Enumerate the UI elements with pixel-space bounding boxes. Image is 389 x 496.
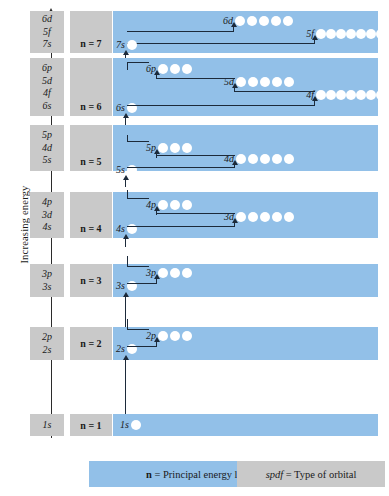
level-label: 1s <box>120 418 131 432</box>
orbital-stack-n4: 4p 3d 4s <box>30 192 64 238</box>
connector-hline <box>127 198 149 199</box>
orbital-circle <box>326 29 336 39</box>
orbital-circle <box>272 154 282 164</box>
orbital-circle <box>182 64 192 74</box>
shell-label: n = 3 <box>80 275 101 286</box>
orbital-stack-label: 6p <box>42 62 52 75</box>
legend-key-n: n <box>146 469 152 480</box>
shell-box-n5: n = 5 <box>70 125 112 171</box>
shell-label: n = 7 <box>80 38 101 49</box>
shell-box-n2: n = 2 <box>70 327 112 360</box>
level-label: 2s <box>116 342 127 356</box>
orbital-circle <box>260 154 270 164</box>
orbital-circle <box>346 90 356 100</box>
connector-vline <box>125 238 126 247</box>
orbital-circle <box>346 29 356 39</box>
connector-hline <box>234 91 315 92</box>
orbital-stack-n1: 1s <box>30 414 64 436</box>
orbital-circle <box>376 29 386 39</box>
orbital-circle <box>284 212 294 222</box>
orbital-circle <box>170 143 180 153</box>
orbital-stack-label: 5p <box>42 129 52 142</box>
orbital-stack-n7: 6d 5f 7s <box>30 11 64 53</box>
orbital-stack-label: 4p <box>42 196 52 209</box>
shell-label: n = 6 <box>80 101 101 112</box>
connector-hline <box>127 62 149 63</box>
orbital-circle <box>131 420 141 430</box>
connector-hline <box>156 155 235 156</box>
legend-key-spdf: spdf <box>266 469 284 480</box>
orbital-circle <box>182 143 192 153</box>
energy-axis-label: Increasing energy <box>18 155 31 295</box>
legend-text-spdf: = Type of orbital <box>286 469 357 480</box>
orbital-stack-label: 3p <box>42 268 52 281</box>
orbital-circle <box>284 77 294 87</box>
connector-hline <box>127 43 315 44</box>
connector-hline <box>127 346 157 347</box>
shell-box-n6: n = 6 <box>70 58 112 116</box>
connector-vline <box>125 359 126 417</box>
connector-vline <box>127 256 128 267</box>
shell-box-n7: n = 7 <box>70 11 112 53</box>
connector-vline <box>127 135 128 142</box>
orbital-circle <box>182 331 192 341</box>
connector-hline <box>127 31 234 32</box>
orbital-circle <box>170 268 180 278</box>
shell-box-n4: n = 4 <box>70 192 112 238</box>
orbital-circle <box>271 16 281 26</box>
shell-box-n1: n = 1 <box>70 414 112 436</box>
orbital-circle <box>248 77 258 87</box>
orbital-stack-label: 5f <box>43 26 51 39</box>
orbital-stack-label: 2s <box>43 344 52 357</box>
orbital-circle <box>247 16 257 26</box>
connector-hline <box>156 213 235 214</box>
orbital-circle <box>356 29 366 39</box>
orbital-circle <box>170 200 180 210</box>
orbital-stack-label: 7s <box>43 38 52 51</box>
orbital-circle <box>326 90 336 100</box>
orbital-stack-label: 1s <box>43 419 52 432</box>
orbital-circle <box>182 268 192 278</box>
connector-hline <box>127 105 315 106</box>
connector-vline <box>127 62 128 70</box>
energy-level-diagram: Increasing energy 6d 5f 7s n = 7 6d 5f 7… <box>0 0 389 496</box>
shell-label: n = 5 <box>80 156 101 167</box>
orbital-stack-n3: 3p 3s <box>30 264 64 297</box>
orbital-circle <box>284 154 294 164</box>
orbital-circle <box>366 90 376 100</box>
orbital-stack-label: 6s <box>43 100 52 113</box>
orbital-circle <box>336 90 346 100</box>
orbital-circle <box>260 212 270 222</box>
shell-label: n = 4 <box>80 223 101 234</box>
orbital-stack-label: 2p <box>42 331 52 344</box>
orbital-stack-label: 4d <box>42 142 52 155</box>
level-label: 3s <box>116 279 127 293</box>
connector-hline <box>127 167 235 168</box>
connector-hline <box>127 283 157 284</box>
orbital-circle <box>336 29 346 39</box>
orbital-stack-label: 3s <box>43 281 52 294</box>
orbital-circle <box>259 16 269 26</box>
connector-hline <box>156 78 235 79</box>
legend-type-of-orbital: spdf = Type of orbital <box>237 461 385 487</box>
orbital-circle <box>248 212 258 222</box>
band-n1 <box>113 414 378 436</box>
orbital-circle <box>170 331 180 341</box>
orbital-circle <box>283 16 293 26</box>
orbital-circle <box>366 29 376 39</box>
connector-hline <box>127 329 149 330</box>
orbital-circle <box>272 212 282 222</box>
connector-hline <box>127 266 149 267</box>
connector-vline <box>127 190 128 199</box>
shell-label: n = 1 <box>80 420 101 431</box>
orbital-circle <box>272 77 282 87</box>
connector-vline <box>127 319 128 330</box>
orbital-stack-n2: 2p 2s <box>30 327 64 360</box>
orbital-circle <box>170 64 180 74</box>
connector-hline <box>127 226 235 227</box>
orbital-stack-n5: 5p 4d 5s <box>30 125 64 171</box>
connector-hline <box>127 141 149 142</box>
orbital-stack-n6: 6p 5d 4f 6s <box>30 58 64 116</box>
orbital-circle <box>182 200 192 210</box>
orbital-circle <box>356 90 366 100</box>
